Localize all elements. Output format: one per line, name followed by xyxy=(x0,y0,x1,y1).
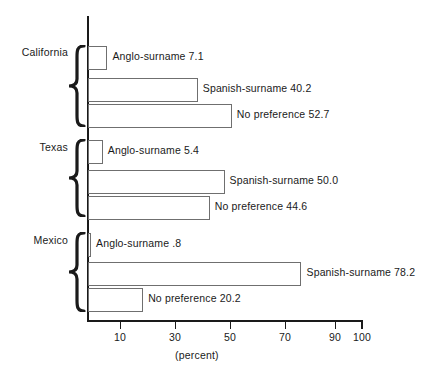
group-label-mexico: Mexico xyxy=(10,234,68,246)
x-axis-line xyxy=(87,320,363,322)
bar-label-texas-anglo-surname: Anglo-surname 5.4 xyxy=(108,144,199,156)
bar-california-spanish-surname xyxy=(88,78,198,102)
bar-california-anglo-surname xyxy=(88,46,107,70)
x-tick-10 xyxy=(120,322,121,329)
bar-california-no-preference xyxy=(88,104,232,128)
bar-mexico-spanish-surname xyxy=(88,262,301,286)
x-axis-title: (percent) xyxy=(175,349,219,361)
x-tick-label-100: 100 xyxy=(342,331,382,343)
bar-label-mexico-spanish-surname: Spanish-surname 78.2 xyxy=(306,266,415,278)
x-tick-label-10: 10 xyxy=(100,331,140,343)
bar-label-california-spanish-surname: Spanish-surname 40.2 xyxy=(203,82,312,94)
bar-mexico-anglo-surname xyxy=(88,233,91,257)
bar-label-mexico-anglo-surname: Anglo-surname .8 xyxy=(96,237,181,249)
x-tick-50 xyxy=(230,322,231,329)
bar-texas-spanish-surname xyxy=(88,170,225,194)
x-tick-label-50: 50 xyxy=(210,331,250,343)
bar-label-california-no-preference: No preference 52.7 xyxy=(237,108,330,120)
bar-label-mexico-no-preference: No preference 20.2 xyxy=(148,292,241,304)
x-tick-100 xyxy=(361,322,363,329)
bar-texas-anglo-surname xyxy=(88,140,103,164)
bar-mexico-no-preference xyxy=(88,288,143,312)
bar-texas-no-preference xyxy=(88,196,210,220)
x-tick-label-70: 70 xyxy=(265,331,305,343)
group-brace-mexico xyxy=(66,232,86,316)
group-brace-texas xyxy=(66,139,86,221)
bar-label-texas-spanish-surname: Spanish-surname 50.0 xyxy=(230,174,339,186)
group-label-texas: Texas xyxy=(10,141,68,153)
bar-label-california-anglo-surname: Anglo-surname 7.1 xyxy=(112,50,203,62)
x-tick-label-30: 30 xyxy=(155,331,195,343)
x-tick-90 xyxy=(335,322,336,329)
bar-chart: 10 30 50 70 90 100 (percent) California … xyxy=(0,0,422,375)
group-label-california: California xyxy=(10,46,68,58)
x-tick-70 xyxy=(285,322,286,329)
x-tick-30 xyxy=(175,322,176,329)
bar-label-texas-no-preference: No preference 44.6 xyxy=(215,200,308,212)
group-brace-california xyxy=(66,45,86,131)
